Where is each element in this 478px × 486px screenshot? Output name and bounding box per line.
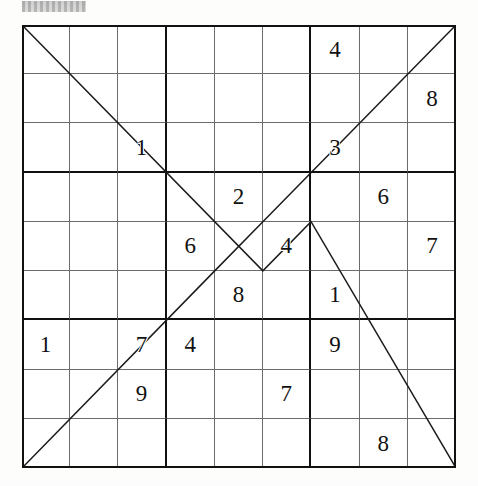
sudoku-empty-cell[interactable] [263, 25, 311, 74]
sudoku-given-cell[interactable]: 8 [360, 419, 408, 468]
sudoku-given-cell[interactable]: 1 [22, 320, 70, 369]
sudoku-empty-cell[interactable] [263, 173, 311, 222]
sudoku-empty-cell[interactable] [360, 320, 408, 369]
sudoku-empty-cell[interactable] [408, 271, 456, 320]
cell-digit: 8 [233, 283, 245, 306]
sudoku-empty-cell[interactable] [22, 173, 70, 222]
sudoku-empty-cell[interactable] [311, 74, 359, 123]
sudoku-grid[interactable]: 481326647811749978 [22, 25, 456, 468]
cell-digit: 4 [280, 234, 292, 257]
sudoku-empty-cell[interactable] [167, 419, 215, 468]
sudoku-empty-cell[interactable] [22, 123, 70, 172]
cell-digit: 4 [329, 38, 341, 61]
cell-digit: 3 [329, 136, 341, 159]
sudoku-empty-cell[interactable] [70, 222, 118, 271]
sudoku-empty-cell[interactable] [70, 173, 118, 222]
sudoku-empty-cell[interactable] [360, 222, 408, 271]
sudoku-empty-cell[interactable] [215, 370, 263, 419]
sudoku-empty-cell[interactable] [118, 419, 166, 468]
sudoku-empty-cell[interactable] [408, 173, 456, 222]
sudoku-empty-cell[interactable] [311, 370, 359, 419]
sudoku-given-cell[interactable]: 2 [215, 173, 263, 222]
sudoku-empty-cell[interactable] [311, 222, 359, 271]
cell-digit: 4 [185, 333, 197, 356]
sudoku-given-cell[interactable]: 7 [118, 320, 166, 369]
sudoku-empty-cell[interactable] [22, 74, 70, 123]
sudoku-empty-cell[interactable] [408, 320, 456, 369]
sudoku-empty-cell[interactable] [167, 25, 215, 74]
sudoku-empty-cell[interactable] [22, 271, 70, 320]
sudoku-empty-cell[interactable] [263, 320, 311, 369]
sudoku-empty-cell[interactable] [215, 419, 263, 468]
sudoku-empty-cell[interactable] [360, 25, 408, 74]
sudoku-empty-cell[interactable] [118, 25, 166, 74]
sudoku-empty-cell[interactable] [215, 25, 263, 74]
cell-digit: 9 [329, 333, 341, 356]
sudoku-empty-cell[interactable] [408, 370, 456, 419]
sudoku-given-cell[interactable]: 9 [311, 320, 359, 369]
cell-digit: 6 [185, 234, 197, 257]
sudoku-given-cell[interactable]: 3 [311, 123, 359, 172]
sudoku-given-cell[interactable]: 7 [263, 370, 311, 419]
cell-digit: 7 [280, 382, 292, 405]
sudoku-empty-cell[interactable] [263, 74, 311, 123]
sudoku-given-cell[interactable]: 7 [408, 222, 456, 271]
sudoku-empty-cell[interactable] [70, 123, 118, 172]
sudoku-empty-cell[interactable] [408, 25, 456, 74]
cell-digit: 7 [136, 333, 148, 356]
sudoku-empty-cell[interactable] [22, 25, 70, 74]
sudoku-empty-cell[interactable] [118, 74, 166, 123]
sudoku-empty-cell[interactable] [70, 271, 118, 320]
cell-digit: 1 [136, 136, 148, 159]
sudoku-empty-cell[interactable] [70, 370, 118, 419]
cell-digit: 7 [426, 234, 438, 257]
sudoku-empty-cell[interactable] [311, 419, 359, 468]
cell-digit: 6 [377, 185, 389, 208]
sudoku-empty-cell[interactable] [167, 123, 215, 172]
sudoku-empty-cell[interactable] [215, 222, 263, 271]
sudoku-empty-cell[interactable] [360, 370, 408, 419]
sudoku-empty-cell[interactable] [167, 271, 215, 320]
sudoku-empty-cell[interactable] [70, 25, 118, 74]
sudoku-given-cell[interactable]: 6 [360, 173, 408, 222]
sudoku-grid-container: 481326647811749978 [22, 25, 456, 468]
sudoku-empty-cell[interactable] [263, 419, 311, 468]
sudoku-given-cell[interactable]: 1 [118, 123, 166, 172]
sudoku-empty-cell[interactable] [22, 222, 70, 271]
sudoku-empty-cell[interactable] [360, 123, 408, 172]
sudoku-empty-cell[interactable] [408, 419, 456, 468]
sudoku-given-cell[interactable]: 4 [311, 25, 359, 74]
cell-digit: 2 [233, 185, 245, 208]
sudoku-empty-cell[interactable] [311, 173, 359, 222]
sudoku-empty-cell[interactable] [22, 370, 70, 419]
sudoku-given-cell[interactable]: 1 [311, 271, 359, 320]
sudoku-empty-cell[interactable] [263, 271, 311, 320]
sudoku-given-cell[interactable]: 8 [215, 271, 263, 320]
sudoku-given-cell[interactable]: 9 [118, 370, 166, 419]
sudoku-empty-cell[interactable] [70, 320, 118, 369]
header-smudge-artifact [22, 1, 86, 12]
sudoku-empty-cell[interactable] [360, 74, 408, 123]
sudoku-given-cell[interactable]: 4 [263, 222, 311, 271]
sudoku-given-cell[interactable]: 6 [167, 222, 215, 271]
sudoku-empty-cell[interactable] [360, 271, 408, 320]
sudoku-empty-cell[interactable] [167, 370, 215, 419]
sudoku-empty-cell[interactable] [167, 74, 215, 123]
cell-digit: 8 [377, 432, 389, 455]
cell-digit: 1 [40, 333, 52, 356]
sudoku-empty-cell[interactable] [118, 173, 166, 222]
sudoku-empty-cell[interactable] [70, 74, 118, 123]
sudoku-empty-cell[interactable] [118, 222, 166, 271]
sudoku-empty-cell[interactable] [22, 419, 70, 468]
sudoku-empty-cell[interactable] [167, 173, 215, 222]
sudoku-empty-cell[interactable] [70, 419, 118, 468]
sudoku-given-cell[interactable]: 8 [408, 74, 456, 123]
sudoku-empty-cell[interactable] [408, 123, 456, 172]
sudoku-given-cell[interactable]: 4 [167, 320, 215, 369]
sudoku-empty-cell[interactable] [215, 320, 263, 369]
sudoku-empty-cell[interactable] [118, 271, 166, 320]
sudoku-empty-cell[interactable] [215, 123, 263, 172]
sudoku-empty-cell[interactable] [215, 74, 263, 123]
cell-digit: 9 [136, 382, 148, 405]
sudoku-empty-cell[interactable] [263, 123, 311, 172]
